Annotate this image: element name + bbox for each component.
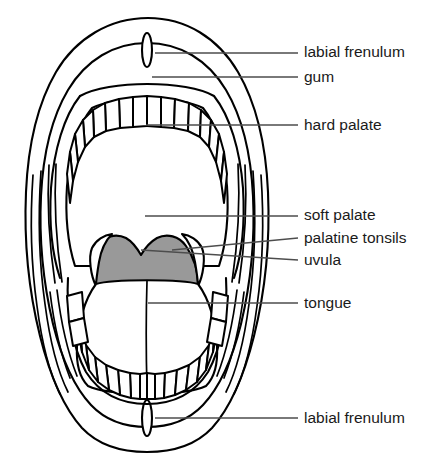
label-gum: gum <box>304 68 334 85</box>
label-group: labial frenulum gum hard palate soft pal… <box>304 43 407 426</box>
label-labial-frenulum-upper: labial frenulum <box>304 43 405 60</box>
label-hard-palate: hard palate <box>304 116 382 133</box>
oral-cavity-diagram: labial frenulum gum hard palate soft pal… <box>0 0 443 457</box>
label-soft-palate: soft palate <box>304 206 376 223</box>
oral-cavity-svg: labial frenulum gum hard palate soft pal… <box>0 0 443 457</box>
label-palatine-tonsils: palatine tonsils <box>304 229 407 246</box>
label-labial-frenulum-lower: labial frenulum <box>304 409 405 426</box>
labial-frenulum-upper-shape <box>142 33 152 67</box>
label-tongue: tongue <box>304 294 351 311</box>
label-uvula: uvula <box>304 251 341 268</box>
labial-frenulum-lower-shape <box>142 400 152 436</box>
